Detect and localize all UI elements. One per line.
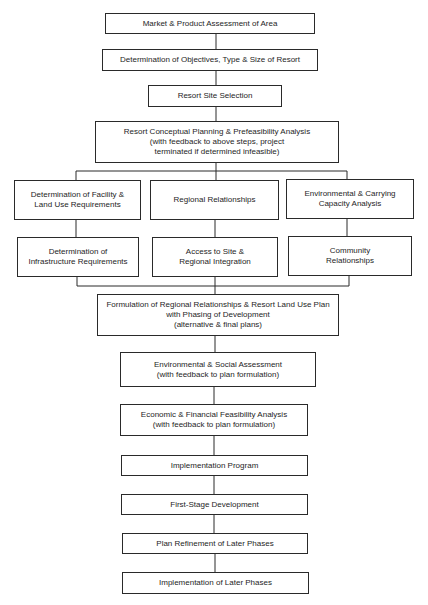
step-implementation-program: Implementation Program <box>121 455 308 476</box>
step-market-assessment: Market & Product Assessment of Area <box>105 13 315 34</box>
step-site-selection: Resort Site Selection <box>148 85 282 107</box>
step-conceptual-planning: Resort Conceptual Planning & Prefeasibil… <box>95 121 339 163</box>
step-infrastructure: Determination of Infrastructure Requirem… <box>17 237 139 277</box>
step-formulation-plan: Formulation of Regional Relationships & … <box>97 294 339 336</box>
step-implementation-later: Implementation of Later Phases <box>122 572 309 594</box>
step-environmental-capacity: Environmental & Carrying Capacity Analys… <box>286 179 414 219</box>
step-regional-relationships: Regional Relationships <box>150 180 279 220</box>
step-access-integration: Access to Site & Regional Integration <box>152 237 278 277</box>
step-economic-feasibility: Economic & Financial Feasibility Analysi… <box>120 404 308 436</box>
step-facility-land-use: Determination of Facility & Land Use Req… <box>14 180 141 220</box>
step-determine-objectives: Determination of Objectives, Type & Size… <box>102 49 318 71</box>
step-env-social-assessment: Environmental & Social Assessment (with … <box>120 352 316 387</box>
step-plan-refinement: Plan Refinement of Later Phases <box>122 533 308 554</box>
step-community-relationships: Community Relationships <box>288 236 412 276</box>
step-first-stage-development: First-Stage Development <box>121 494 308 515</box>
